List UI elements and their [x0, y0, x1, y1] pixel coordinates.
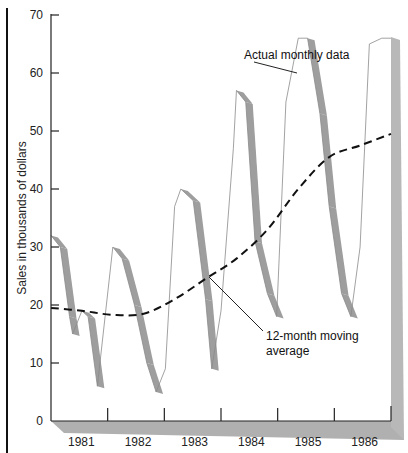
y-tick-label: 0 — [36, 414, 43, 428]
x-tick-label: 1983 — [181, 435, 208, 449]
y-tick-label: 20 — [30, 298, 44, 312]
y-tick-label: 50 — [30, 124, 44, 138]
decline-ribbon — [329, 206, 348, 295]
y-tick-label: 30 — [30, 240, 44, 254]
wall-shadow — [391, 37, 404, 440]
y-tick-label: 40 — [30, 182, 44, 196]
annotation-avg-leader — [209, 277, 263, 331]
moving-average-line — [51, 134, 391, 316]
decline-ribbon — [255, 241, 274, 295]
y-ticks: 010203040506070 — [30, 8, 59, 428]
y-axis-label: Sales in thousands of dollars — [15, 141, 29, 294]
decline-ribbon — [193, 201, 212, 302]
annotation-avg-line2: average — [266, 344, 310, 358]
y-tick-label: 60 — [30, 66, 44, 80]
decline-ribbon — [122, 259, 141, 307]
y-tick-label: 10 — [30, 356, 44, 370]
x-tick-label: 1982 — [125, 435, 152, 449]
y-tick-label: 70 — [30, 8, 44, 22]
decline-ribbon — [113, 247, 129, 261]
decline-ribbon — [181, 189, 200, 203]
x-tick-label: 1986 — [351, 435, 378, 449]
annotation-actual-data: Actual monthly data — [244, 48, 350, 62]
x-tick-label: 1985 — [295, 435, 322, 449]
x-tick-label: 1984 — [238, 435, 265, 449]
sales-chart: 010203040506070 198119821983198419851986… — [0, 0, 408, 453]
annotation-actual-leader — [254, 62, 297, 73]
decline-ribbon — [236, 90, 252, 104]
x-tick-label: 1981 — [68, 435, 95, 449]
annotation-avg-line1: 12-month moving — [266, 329, 359, 343]
